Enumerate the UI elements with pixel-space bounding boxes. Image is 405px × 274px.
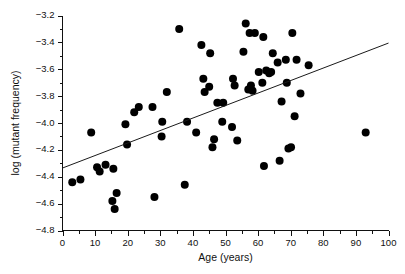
y-tick-label: −4.6 bbox=[36, 197, 55, 208]
data-point bbox=[210, 135, 218, 143]
y-tick-label: −4.4 bbox=[36, 170, 55, 181]
data-point bbox=[205, 83, 213, 91]
data-point bbox=[108, 197, 116, 205]
x-axis-title: Age (years) bbox=[198, 251, 252, 263]
x-tick-label: 100 bbox=[381, 237, 397, 248]
data-point bbox=[135, 103, 143, 111]
data-point bbox=[197, 41, 205, 49]
x-tick-label: 20 bbox=[122, 237, 133, 248]
data-point bbox=[150, 193, 158, 201]
x-axis-tick-labels: 0102030405060708090100 bbox=[60, 237, 397, 248]
data-point bbox=[305, 61, 313, 69]
data-point bbox=[291, 112, 299, 120]
data-point bbox=[282, 56, 290, 64]
y-tick-label: −3.2 bbox=[36, 9, 55, 20]
data-point bbox=[249, 87, 257, 95]
x-axis-ticks bbox=[64, 231, 390, 236]
data-point bbox=[362, 128, 370, 136]
data-point bbox=[158, 118, 166, 126]
y-tick-label: −4.2 bbox=[36, 143, 55, 154]
data-point bbox=[192, 128, 200, 136]
data-point bbox=[251, 29, 259, 37]
data-point bbox=[287, 143, 295, 151]
chart-canvas: 0102030405060708090100 −3.2−3.4−3.6−3.8−… bbox=[0, 0, 405, 274]
y-tick-label: −4.8 bbox=[36, 224, 55, 235]
data-point bbox=[258, 79, 266, 87]
data-point bbox=[111, 205, 119, 213]
data-point bbox=[148, 103, 156, 111]
data-point bbox=[269, 49, 277, 57]
y-tick-label: −3.8 bbox=[36, 90, 55, 101]
x-tick-label: 70 bbox=[285, 237, 296, 248]
data-point bbox=[218, 118, 226, 126]
y-tick-label: −3.4 bbox=[36, 36, 55, 47]
data-point bbox=[102, 161, 110, 169]
data-point bbox=[267, 68, 275, 76]
y-axis-tick-labels: −3.2−3.4−3.6−3.8−4.0−4.2−4.4−4.6−4.8 bbox=[36, 9, 55, 235]
data-point bbox=[96, 167, 104, 175]
x-tick-label: 60 bbox=[253, 237, 264, 248]
data-point bbox=[255, 68, 263, 76]
y-axis-ticks bbox=[58, 17, 63, 232]
scatter-plot-figure: 0102030405060708090100 −3.2−3.4−3.6−3.8−… bbox=[0, 0, 405, 274]
data-point bbox=[113, 189, 121, 197]
data-point bbox=[87, 128, 95, 136]
data-point bbox=[274, 59, 282, 67]
y-axis-title: log (mutant frequency) bbox=[9, 70, 21, 175]
data-point bbox=[278, 98, 286, 106]
data-point bbox=[121, 120, 129, 128]
x-tick-label: 10 bbox=[90, 237, 101, 248]
data-points bbox=[68, 20, 369, 213]
data-point bbox=[175, 25, 183, 33]
data-point bbox=[296, 89, 304, 97]
data-point bbox=[76, 175, 84, 183]
data-point bbox=[181, 181, 189, 189]
x-tick-label: 0 bbox=[60, 237, 65, 248]
data-point bbox=[158, 132, 166, 140]
data-point bbox=[206, 49, 214, 57]
data-point bbox=[276, 157, 284, 165]
data-point bbox=[288, 29, 296, 37]
x-tick-label: 30 bbox=[155, 237, 166, 248]
data-point bbox=[199, 75, 207, 83]
x-tick-label: 40 bbox=[188, 237, 199, 248]
data-point bbox=[260, 162, 268, 170]
data-point bbox=[109, 165, 117, 173]
data-point bbox=[259, 33, 267, 41]
regression-line bbox=[63, 43, 389, 168]
data-point bbox=[231, 81, 239, 89]
data-point bbox=[228, 123, 236, 131]
data-point bbox=[208, 143, 216, 151]
data-point bbox=[293, 56, 301, 64]
y-tick-label: −4.0 bbox=[36, 117, 55, 128]
data-point bbox=[242, 20, 250, 28]
data-point bbox=[233, 136, 241, 144]
data-point bbox=[163, 88, 171, 96]
data-point bbox=[229, 75, 237, 83]
data-point bbox=[68, 178, 76, 186]
x-tick-label: 80 bbox=[318, 237, 329, 248]
data-point bbox=[239, 48, 247, 56]
x-tick-label: 50 bbox=[220, 237, 231, 248]
y-tick-label: −3.6 bbox=[36, 63, 55, 74]
x-tick-label: 90 bbox=[351, 237, 362, 248]
